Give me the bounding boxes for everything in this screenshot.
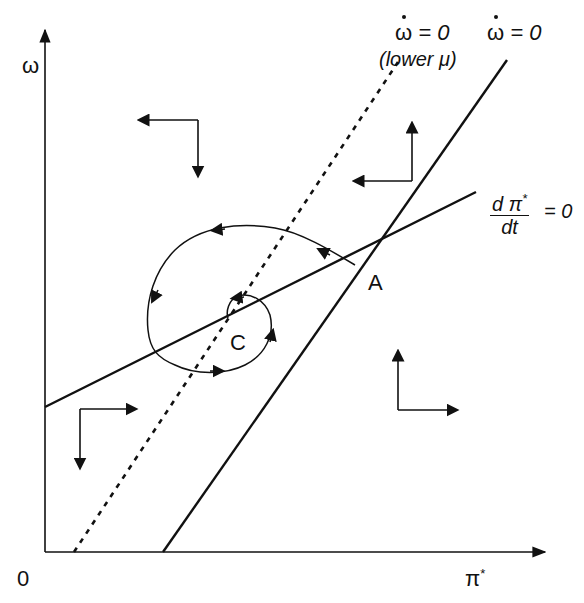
omega-dot-symbol: ω — [395, 20, 412, 46]
trajectory-arrow-6 — [236, 297, 244, 298]
origin-label: 0 — [17, 566, 29, 592]
fraction-denominator: dt — [490, 216, 529, 238]
trajectory-path — [147, 226, 355, 373]
omega-dot-zero-lower-mu-label: ω = 0 — [395, 20, 450, 46]
trajectory-arrow-3 — [154, 290, 158, 298]
dpi-dt-zero-label: d π* dt — [490, 188, 529, 238]
phase-diagram — [0, 0, 584, 603]
x-axis-label: π* — [465, 566, 485, 592]
trajectory-arrow-2 — [216, 229, 225, 230]
equals-zero: = 0 — [412, 20, 449, 45]
y-axis-label: ω — [22, 53, 39, 79]
trajectory-arrow-1 — [322, 251, 330, 255]
x-axis-star: * — [480, 566, 485, 581]
axes — [45, 30, 545, 552]
direction-arrow-upper-left — [143, 120, 198, 172]
direction-arrow-lower-right — [398, 355, 453, 410]
omega-dot-zero-label: ω = 0 — [487, 20, 542, 46]
omega-dot-zero-lower-mu-line — [74, 62, 398, 552]
point-C-label: C — [230, 330, 246, 356]
dpi-dt-zero-line — [45, 192, 476, 407]
equals-zero: = 0 — [504, 20, 541, 45]
trajectory — [147, 226, 355, 373]
omega-dot-symbol: ω — [487, 20, 504, 46]
direction-arrow-lower-left — [80, 409, 132, 464]
direction-arrow-upper-right — [358, 127, 412, 181]
point-A-label: A — [368, 270, 383, 296]
x-axis-symbol: π — [465, 566, 480, 591]
dpi-dt-equals-zero: = 0 — [544, 200, 572, 223]
fraction-numerator: d π* — [490, 188, 529, 216]
omega-dot-zero-line — [163, 60, 507, 552]
lower-mu-sublabel: (lower μ) — [379, 48, 457, 71]
